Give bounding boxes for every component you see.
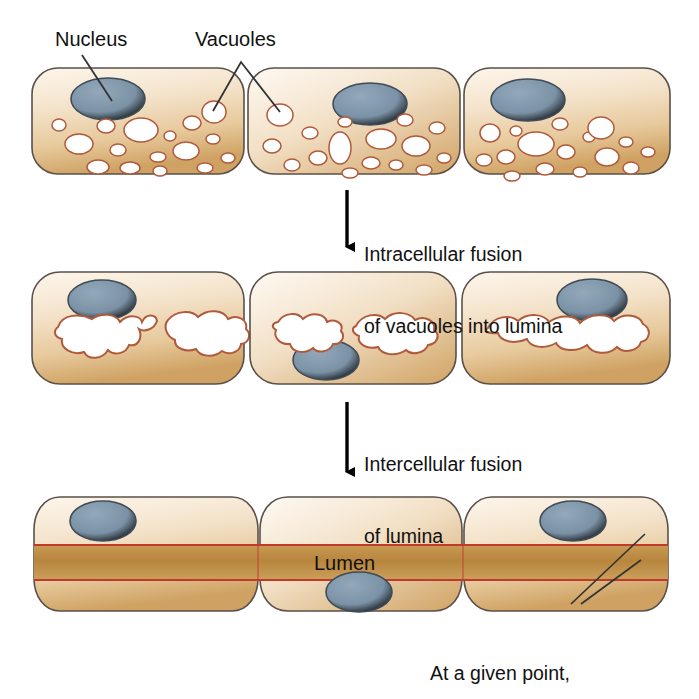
cell-top-1 — [32, 68, 244, 176]
step-2-line-2: of lumina — [364, 524, 522, 548]
step-1-line-2: of vacuoles into lumina — [364, 314, 562, 338]
step-1-text: Intracellular fusion of vacuoles into lu… — [364, 194, 562, 386]
row-top — [32, 68, 670, 181]
label-lumen: Lumen — [314, 551, 375, 575]
cell-mid-1 — [32, 272, 249, 384]
step-2-line-1: Intercellular fusion — [364, 452, 522, 476]
figure-canvas: Nucleus Vacuoles Intracellular fusion of… — [0, 0, 699, 699]
cell-top-3 — [464, 68, 670, 181]
diagram-svg — [0, 0, 699, 699]
caption-single-cell: At a given point, lumen wall membrane is… — [430, 613, 621, 699]
cell-top-2 — [248, 68, 460, 178]
label-vacuoles: Vacuoles — [195, 27, 276, 51]
step-2-text: Intercellular fusion of lumina — [364, 404, 522, 596]
step-1-line-1: Intracellular fusion — [364, 242, 562, 266]
nucleus — [71, 78, 145, 120]
caption-line-1: At a given point, — [430, 661, 621, 685]
nucleus — [70, 501, 136, 541]
nucleus — [491, 79, 565, 121]
nucleus — [557, 279, 627, 321]
row-middle — [32, 272, 670, 384]
nucleus — [540, 501, 606, 541]
label-nucleus: Nucleus — [55, 27, 127, 51]
